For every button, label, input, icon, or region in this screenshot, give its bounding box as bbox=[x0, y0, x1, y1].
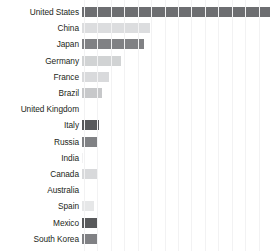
category-label: Australia bbox=[0, 185, 82, 195]
bar-cell bbox=[82, 69, 272, 85]
chart-row: Italy bbox=[0, 117, 272, 133]
bar-cell bbox=[82, 214, 272, 230]
bar-cell bbox=[82, 85, 272, 101]
category-label: Spain bbox=[0, 201, 82, 211]
chart-row: Brazil bbox=[0, 85, 272, 101]
category-label: United States bbox=[0, 7, 82, 17]
bar bbox=[82, 72, 109, 82]
category-label: United Kingdom bbox=[0, 104, 82, 114]
bar-cell bbox=[82, 4, 272, 20]
bar bbox=[82, 201, 94, 211]
bar bbox=[82, 56, 121, 66]
bar-chart: United StatesChinaJapanGermanyFranceBraz… bbox=[0, 0, 272, 251]
bar-cell bbox=[82, 150, 272, 166]
bar-cell bbox=[82, 101, 272, 117]
bar-cell bbox=[82, 198, 272, 214]
category-label: France bbox=[0, 72, 82, 82]
bar bbox=[82, 120, 99, 130]
chart-rows: United StatesChinaJapanGermanyFranceBraz… bbox=[0, 4, 272, 247]
chart-row: France bbox=[0, 69, 272, 85]
chart-row: Japan bbox=[0, 36, 272, 52]
bar-cell bbox=[82, 20, 272, 36]
bar bbox=[82, 153, 83, 163]
chart-row: South Korea bbox=[0, 231, 272, 247]
category-label: Canada bbox=[0, 169, 82, 179]
bar-cell bbox=[82, 117, 272, 133]
bar bbox=[82, 23, 150, 33]
chart-row: Russia bbox=[0, 134, 272, 150]
chart-row: Germany bbox=[0, 53, 272, 69]
category-label: South Korea bbox=[0, 234, 82, 244]
category-label: India bbox=[0, 153, 82, 163]
chart-row: Mexico bbox=[0, 214, 272, 230]
bar bbox=[82, 7, 270, 17]
bar bbox=[82, 218, 98, 228]
category-label: Germany bbox=[0, 56, 82, 66]
bar-cell bbox=[82, 134, 272, 150]
bar bbox=[82, 39, 144, 49]
category-label: Mexico bbox=[0, 218, 82, 228]
chart-row: Canada bbox=[0, 166, 272, 182]
bar-cell bbox=[82, 182, 272, 198]
chart-row: United Kingdom bbox=[0, 101, 272, 117]
bar bbox=[82, 137, 98, 147]
category-label: China bbox=[0, 23, 82, 33]
chart-row: United States bbox=[0, 4, 272, 20]
chart-row: Spain bbox=[0, 198, 272, 214]
bar-cell bbox=[82, 231, 272, 247]
category-label: Russia bbox=[0, 137, 82, 147]
bar bbox=[82, 88, 102, 98]
chart-row: India bbox=[0, 150, 272, 166]
bar-cell bbox=[82, 53, 272, 69]
category-label: Japan bbox=[0, 39, 82, 49]
bar-cell bbox=[82, 166, 272, 182]
chart-row: Australia bbox=[0, 182, 272, 198]
bar bbox=[82, 169, 97, 179]
bar-cell bbox=[82, 36, 272, 52]
category-label: Italy bbox=[0, 120, 82, 130]
chart-row: China bbox=[0, 20, 272, 36]
category-label: Brazil bbox=[0, 88, 82, 98]
bar bbox=[82, 234, 97, 244]
